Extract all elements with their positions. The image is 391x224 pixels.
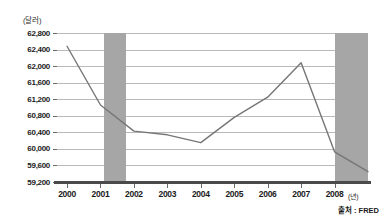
x-axis-tick-mark [201, 184, 202, 188]
y-axis-tick-mark [53, 50, 57, 51]
x-axis-tick-mark [167, 184, 168, 188]
x-axis-line [54, 181, 371, 184]
series-line-layer [57, 33, 368, 182]
y-axis-tick-label: 60,400 [2, 128, 50, 137]
x-axis-tick-mark [268, 184, 269, 188]
y-axis-tick-label: 62,400 [2, 45, 50, 54]
y-axis-tick-mark [53, 165, 57, 166]
y-axis-tick-mark [53, 99, 57, 100]
y-axis-tick-label: 62,800 [2, 29, 50, 38]
y-axis-tick-label: 59,600 [2, 161, 50, 170]
y-axis-tick-mark [53, 33, 57, 34]
y-axis-tick-mark [53, 83, 57, 84]
y-axis-tick-mark [53, 149, 57, 150]
y-axis-unit-label: (달러) [23, 14, 41, 25]
x-axis-tick-mark [100, 184, 101, 188]
x-axis-unit-label: (년) [348, 191, 359, 201]
y-axis-tick-label: 62,000 [2, 62, 50, 71]
plot-area [57, 33, 368, 182]
line-chart-figure: (달러) 62,80062,40062,00061,60061,20060,80… [0, 0, 391, 224]
y-axis-tick-label: 61,200 [2, 95, 50, 104]
source-note: 출처 : FRED [338, 204, 379, 215]
y-axis-tick-label: 60,000 [2, 144, 50, 153]
x-axis-tick-mark [67, 184, 68, 188]
series-line-income [67, 46, 368, 171]
y-axis-tick-label: 60,800 [2, 111, 50, 120]
x-axis-tick-mark [301, 184, 302, 188]
y-axis-tick-label: 61,600 [2, 78, 50, 87]
x-axis-tick-mark [134, 184, 135, 188]
y-axis-tick-mark [53, 116, 57, 117]
x-axis-tick-mark [335, 184, 336, 188]
y-axis-tick-label: 59,200 [2, 178, 50, 187]
x-axis-tick-mark [234, 184, 235, 188]
y-axis-tick-mark [53, 66, 57, 67]
y-axis-tick-mark [53, 132, 57, 133]
